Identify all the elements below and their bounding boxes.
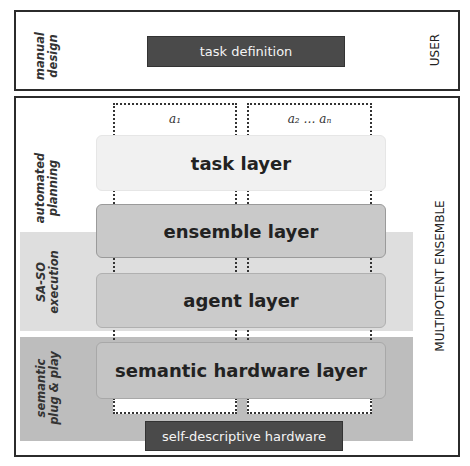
agent-layer: agent layer: [96, 273, 386, 328]
label-line: planning: [47, 148, 60, 228]
label-line: design: [47, 26, 60, 86]
sa-so-execution-label: SA-SO execution: [35, 247, 63, 317]
manual-design-label: manual design: [34, 26, 62, 86]
label-line: execution: [48, 247, 61, 317]
self-descriptive-hardware-box: self-descriptive hardware: [145, 421, 343, 451]
task-definition-box: task definition: [147, 36, 345, 67]
agent-an-label: a₂ … aₙ: [249, 106, 370, 132]
user-label: USER: [428, 20, 444, 80]
multipotent-ensemble-label: MULTIPOTENT ENSEMBLE: [433, 191, 449, 361]
label-line: plug & play: [48, 343, 61, 433]
agent-a1-label: a₁: [115, 106, 235, 132]
agent-column-1-end: [113, 398, 237, 414]
semantic-hardware-layer: semantic hardware layer: [96, 342, 386, 399]
agent-column-n-end: [247, 398, 372, 414]
semantic-plug-play-label: semantic plug & play: [35, 343, 63, 433]
task-layer: task layer: [96, 135, 386, 191]
automated-planning-label: automated planning: [34, 148, 62, 228]
ensemble-layer: ensemble layer: [96, 204, 386, 258]
